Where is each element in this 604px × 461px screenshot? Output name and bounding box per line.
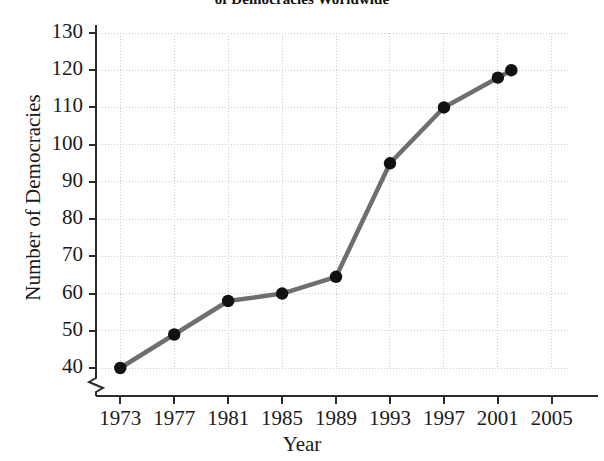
y-tick-label: 100 <box>52 131 84 156</box>
y-tick-label: 70 <box>62 242 83 267</box>
axis-lines <box>96 25 598 396</box>
y-tick-label: 120 <box>52 56 84 81</box>
y-tick-label: 110 <box>52 93 83 118</box>
y-tick-label: 60 <box>62 280 83 305</box>
y-tick-label: 40 <box>62 354 83 379</box>
y-tick-label: 80 <box>62 205 83 230</box>
plot-area <box>0 0 604 461</box>
y-tick-label: 130 <box>52 19 84 44</box>
y-tick-label: 90 <box>62 168 83 193</box>
x-tick-label: 2005 <box>512 406 592 431</box>
chart-figure: of Democracies Worldwide Number of Democ… <box>0 0 604 461</box>
y-axis-break-symbol <box>89 372 103 396</box>
y-tick-label: 50 <box>62 317 83 342</box>
